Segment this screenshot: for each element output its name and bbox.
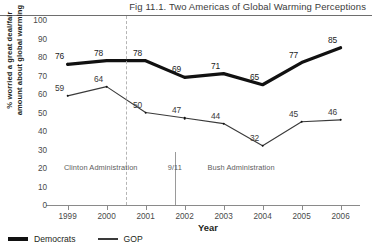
data-point-label: 50 — [133, 100, 142, 110]
legend-label-democrats: Democrats — [34, 234, 76, 244]
x-axis-tick-mark — [224, 206, 225, 210]
x-axis-tick-label: 2004 — [253, 212, 271, 221]
data-point-label: 77 — [289, 50, 298, 60]
data-point-marker — [300, 120, 303, 123]
data-point-marker — [144, 59, 147, 62]
x-axis-tick-mark — [263, 206, 264, 210]
x-axis-tick-label: 2006 — [331, 212, 349, 221]
x-axis-tick-mark — [185, 206, 186, 210]
data-point-marker — [144, 111, 147, 114]
x-axis-tick-mark — [107, 206, 108, 210]
data-point-label: 32 — [250, 133, 259, 143]
x-axis-line — [46, 205, 360, 206]
y-axis-tick-label: 20 — [38, 164, 47, 173]
legend-swatch-gop — [98, 238, 118, 240]
y-axis-tick-label: 40 — [38, 127, 47, 136]
x-axis-tick-mark — [146, 206, 147, 210]
data-point-marker — [105, 59, 108, 62]
title-divider — [0, 15, 372, 16]
data-point-label: 64 — [94, 74, 103, 84]
data-point-label: 46 — [328, 107, 337, 117]
x-axis-tick-label: 2002 — [175, 212, 193, 221]
data-point-marker — [183, 117, 186, 120]
data-point-label: 45 — [289, 109, 298, 119]
y-axis-tick-label: 90 — [38, 34, 47, 43]
chart-legend: Democrats GOP — [8, 234, 165, 244]
data-point-label: 59 — [55, 83, 64, 93]
series-line-gop — [68, 87, 341, 146]
era-annotation: Clinton Administration — [64, 163, 138, 172]
legend-item-gop: GOP — [98, 234, 143, 244]
reference-line-dashed — [126, 16, 127, 205]
x-axis-tick-label: 2000 — [97, 212, 115, 221]
legend-swatch-democrats — [8, 237, 28, 241]
y-axis-tick-label: 50 — [38, 108, 47, 117]
data-point-marker — [261, 145, 264, 148]
x-axis-title: Year — [52, 222, 364, 233]
y-axis-title-line2: amount about global warming — [15, 0, 25, 140]
x-axis-tick-label: 2001 — [136, 212, 154, 221]
data-point-marker — [222, 122, 225, 125]
legend-label-gop: GOP — [124, 234, 143, 244]
era-annotation: Bush Administration — [208, 163, 275, 172]
x-axis-tick-mark — [341, 206, 342, 210]
y-axis-tick-label: 0 — [42, 201, 47, 210]
data-point-label: 78 — [133, 48, 142, 58]
reference-line-solid — [175, 152, 176, 205]
data-point-marker — [339, 46, 342, 49]
series-line-democrats — [68, 48, 341, 85]
data-point-label: 69 — [172, 64, 181, 74]
data-point-label: 78 — [94, 48, 103, 58]
data-point-marker — [300, 61, 303, 64]
y-axis-title-line1: % worried a great deal/fair — [5, 0, 15, 140]
data-point-label: 65 — [250, 72, 259, 82]
y-axis-tick-label: 30 — [38, 145, 47, 154]
data-point-label: 76 — [55, 51, 64, 61]
data-point-marker — [66, 63, 69, 66]
figure-title: Fig 11.1. Two Americas of Global Warming… — [0, 1, 366, 12]
y-axis-title: % worried a great deal/fair amount about… — [5, 0, 29, 140]
data-point-marker — [66, 95, 69, 98]
data-point-marker — [222, 72, 225, 75]
data-point-marker — [261, 83, 264, 86]
plot-area: 1009080706050403020100199920002001200220… — [52, 20, 364, 208]
y-axis-tick-label: 70 — [38, 71, 47, 80]
x-axis-tick-label: 2005 — [292, 212, 310, 221]
data-point-label: 44 — [211, 111, 220, 121]
data-point-label: 71 — [211, 61, 220, 71]
data-point-marker — [183, 76, 186, 79]
x-axis-tick-label: 1999 — [58, 212, 76, 221]
data-point-label: 47 — [172, 105, 181, 115]
legend-item-democrats: Democrats — [8, 234, 76, 244]
data-point-marker — [105, 85, 108, 88]
y-axis-tick-label: 100 — [33, 16, 47, 25]
y-axis-tick-label: 10 — [38, 182, 47, 191]
x-axis-tick-label: 2003 — [214, 212, 232, 221]
y-axis-tick-label: 60 — [38, 90, 47, 99]
x-axis-tick-mark — [302, 206, 303, 210]
figure-container: Fig 11.1. Two Americas of Global Warming… — [0, 0, 372, 247]
data-point-label: 85 — [328, 35, 337, 45]
y-axis-tick-label: 80 — [38, 53, 47, 62]
data-point-marker — [339, 119, 342, 122]
era-annotation: 9/11 — [168, 163, 182, 172]
x-axis-tick-mark — [68, 206, 69, 210]
